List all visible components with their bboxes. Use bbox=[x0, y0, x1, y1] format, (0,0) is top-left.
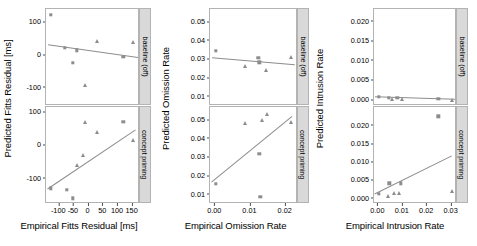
y-tick-label: 0.010 bbox=[351, 157, 369, 166]
data-point-triangle bbox=[131, 138, 135, 142]
y-tick-label: 0.005 bbox=[351, 75, 369, 84]
y-tick-label: 0.015 bbox=[351, 139, 369, 148]
y-tick-label: 100 bbox=[29, 107, 41, 116]
data-point-square bbox=[75, 49, 78, 52]
y-axis-label-text: Predicted Intrusion Rate bbox=[315, 48, 326, 148]
x-tick-label: 150 bbox=[126, 206, 138, 215]
facet-strip-label: baseline (off) bbox=[139, 8, 151, 105]
y-tick-label: 0.010 bbox=[351, 55, 369, 64]
y-tick-labels: 0.050.040.030.020.01 bbox=[172, 106, 209, 203]
y-tick-labels: 0.0200.0150.0100.0050.000 bbox=[327, 8, 373, 105]
data-point-square bbox=[399, 182, 402, 185]
facet-strip-text: baseline (off) bbox=[458, 36, 467, 76]
data-point-square bbox=[257, 56, 260, 59]
data-point-square bbox=[258, 152, 261, 155]
x-axis-label: Empirical Intrusion Rate bbox=[313, 220, 477, 231]
data-point-triangle bbox=[390, 97, 394, 101]
data-point-square bbox=[122, 120, 125, 123]
y-axis-label: Predicted Intrusion Rate bbox=[313, 0, 327, 196]
x-tick-labels: 0.000.010.02 bbox=[209, 203, 297, 217]
x-tick-label: 0.01 bbox=[242, 206, 256, 215]
facet-strip-label: baseline (off) bbox=[297, 8, 309, 105]
plot-panel-omission-priming bbox=[209, 106, 297, 203]
y-tick-label: 0.02 bbox=[191, 73, 205, 82]
data-point-square bbox=[122, 55, 125, 58]
data-point-triangle bbox=[83, 83, 87, 87]
x-tick-label: 0.02 bbox=[278, 206, 292, 215]
y-tick-labels: 1000-100 bbox=[14, 8, 45, 105]
data-point-square bbox=[388, 182, 391, 185]
facet-column-col-omission: Predicted Omission Rate0.050.040.030.020… bbox=[158, 0, 313, 246]
y-tick-label: -100 bbox=[26, 173, 41, 182]
data-point-triangle bbox=[289, 55, 293, 59]
y-tick-label: 0.02 bbox=[191, 171, 205, 180]
data-point-square bbox=[63, 46, 66, 49]
data-point-square bbox=[49, 13, 52, 16]
y-tick-label: 0.005 bbox=[351, 175, 369, 184]
x-tick-label: 0 bbox=[86, 206, 90, 215]
x-tick-label: 0.00 bbox=[370, 206, 384, 215]
data-point-square bbox=[49, 187, 52, 190]
data-point-triangle bbox=[95, 39, 99, 43]
x-tick-label: -100 bbox=[51, 206, 66, 215]
data-point-square bbox=[396, 96, 399, 99]
y-tick-label: 0.020 bbox=[351, 120, 369, 129]
data-point-triangle bbox=[450, 98, 454, 102]
data-point-square bbox=[259, 195, 262, 198]
data-point-triangle bbox=[243, 64, 247, 68]
y-tick-label: 0.03 bbox=[191, 54, 205, 63]
y-tick-label: 0.01 bbox=[191, 189, 205, 198]
x-tick-label: 0.00 bbox=[207, 206, 221, 215]
data-point-triangle bbox=[264, 68, 268, 72]
data-point-triangle bbox=[131, 40, 135, 44]
data-point-square bbox=[258, 61, 261, 64]
y-tick-label: 0.05 bbox=[191, 17, 205, 26]
data-point-triangle bbox=[392, 191, 396, 195]
regression-line bbox=[375, 155, 453, 194]
y-axis-label-text: Predicted Omission Rate bbox=[160, 47, 171, 150]
y-tick-label: 100 bbox=[29, 17, 41, 26]
data-point-square bbox=[214, 182, 217, 185]
facet-strip-label: concept priming bbox=[139, 106, 151, 203]
data-point-triangle bbox=[81, 153, 85, 157]
y-tick-label: 0.000 bbox=[351, 95, 369, 104]
y-axis-label: Predicted Fitts Residual [ms] bbox=[0, 0, 14, 196]
facet-strip-text: concept priming bbox=[299, 130, 308, 179]
y-tick-label: 0.04 bbox=[191, 133, 205, 142]
data-point-triangle bbox=[260, 118, 264, 122]
x-axis-label: Empirical Omission Rate bbox=[158, 220, 313, 231]
y-tick-label: 0 bbox=[37, 140, 41, 149]
y-tick-labels: 1000-100 bbox=[14, 106, 45, 203]
facet-strip-label: baseline (off) bbox=[456, 8, 468, 105]
data-point-triangle bbox=[265, 112, 269, 116]
regression-line bbox=[212, 116, 294, 183]
data-point-square bbox=[436, 115, 439, 118]
data-point-triangle bbox=[95, 130, 99, 134]
facet-column-col-fitts: Predicted Fitts Residual [ms]1000-100bas… bbox=[0, 0, 158, 246]
data-point-triangle bbox=[83, 120, 87, 124]
plot-panel-fitts-priming bbox=[45, 106, 139, 203]
y-tick-label: 0.05 bbox=[191, 115, 205, 124]
plot-panel-intrusion-baseline bbox=[373, 8, 456, 105]
y-tick-label: 0.000 bbox=[351, 193, 369, 202]
data-point-square bbox=[65, 188, 68, 191]
y-tick-label: 0.020 bbox=[351, 16, 369, 25]
data-point-triangle bbox=[289, 120, 293, 124]
figure-panel-grid: Predicted Fitts Residual [ms]1000-100bas… bbox=[0, 0, 477, 246]
x-tick-labels: 0.000.010.020.03 bbox=[373, 203, 456, 217]
x-tick-label: 0.03 bbox=[444, 206, 458, 215]
x-tick-label: -50 bbox=[68, 206, 79, 215]
data-point-triangle bbox=[450, 189, 454, 193]
regression-line bbox=[47, 129, 136, 189]
facet-strip-label: concept priming bbox=[297, 106, 309, 203]
x-tick-label: 100 bbox=[111, 206, 123, 215]
data-point-square bbox=[71, 197, 74, 200]
data-point-square bbox=[436, 97, 439, 100]
plot-panel-intrusion-priming bbox=[373, 106, 456, 203]
y-tick-labels: 0.050.040.030.020.01 bbox=[172, 8, 209, 105]
plot-panel-omission-baseline bbox=[209, 8, 297, 105]
x-axis-label: Empirical Fitts Residual [ms] bbox=[0, 220, 158, 231]
facet-strip-text: baseline (off) bbox=[141, 36, 150, 76]
data-point-square bbox=[377, 192, 380, 195]
data-point-triangle bbox=[397, 191, 401, 195]
